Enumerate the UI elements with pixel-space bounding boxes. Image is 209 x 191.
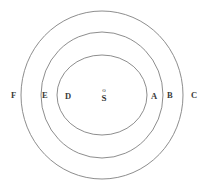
orbit-point-label-d: D [65,92,71,101]
orbit-point-label-b: B [167,91,173,100]
sun-label: S [96,93,112,103]
center-sun-marker: o S [96,87,112,103]
orbit-point-label-c: C [191,91,197,100]
orbit-point-label-a: A [151,92,157,101]
orbit-point-label-f: F [11,91,16,100]
orbit-point-label-e: E [42,91,48,100]
orbit-diagram: o S F E D A B C [0,0,209,191]
